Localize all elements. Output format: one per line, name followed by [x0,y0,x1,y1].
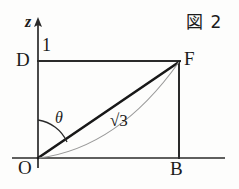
radicand-value: 3 [119,111,128,130]
figure-caption: 図 2 [186,14,222,31]
point-label-F: F [184,49,195,68]
point-label-D: D [16,50,30,69]
figure-container: z 1 D F O B θ √3 図 2 [0,0,239,189]
axis-label-z: z [25,14,31,30]
axis-tick-label-1: 1 [42,36,51,54]
point-label-B: B [170,159,183,178]
length-label-sqrt3: √3 [110,112,128,129]
angle-label-theta: θ [55,110,63,126]
point-label-O: O [18,158,32,177]
radical-sign: √ [110,112,119,129]
